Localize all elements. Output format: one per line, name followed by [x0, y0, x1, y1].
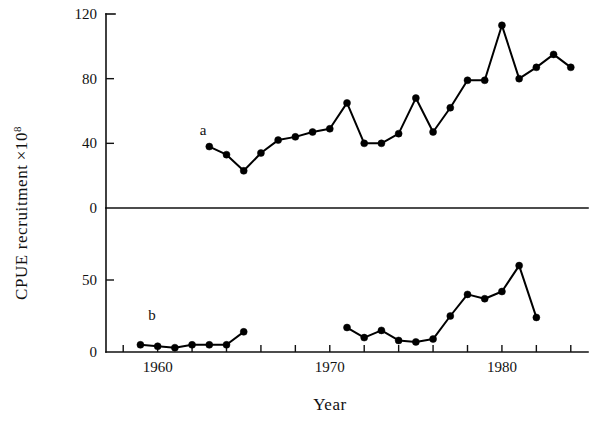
- series-a-point: [257, 150, 264, 157]
- figure-root: 04080120050196019701980 CPUE recruitment…: [0, 0, 602, 426]
- y-axis-title-exponent: 8: [11, 126, 23, 132]
- series-a-point: [326, 125, 333, 132]
- x-tick-label-1980: 1980: [487, 359, 517, 375]
- y-tick-label-bottom-50: 50: [82, 272, 97, 288]
- series-b-line: [347, 266, 536, 342]
- series-a-point: [567, 64, 574, 71]
- series-b-point: [223, 341, 230, 348]
- y-axis-title: CPUE recruitment×108: [11, 126, 31, 300]
- series-a-point: [395, 130, 402, 137]
- series-a-point: [412, 95, 419, 102]
- series-a-point: [533, 64, 540, 71]
- tick-marks: [106, 79, 571, 352]
- series-a-point: [516, 75, 523, 82]
- x-tick-label-1960: 1960: [143, 359, 173, 375]
- series-a-point: [464, 77, 471, 84]
- series-a-point: [275, 137, 282, 144]
- x-axis-title: Year: [313, 395, 347, 414]
- series-a-point: [344, 99, 351, 106]
- series-a-point: [361, 140, 368, 147]
- cpue-recruitment-chart: 04080120050196019701980 CPUE recruitment…: [0, 0, 602, 426]
- series-a-point: [223, 151, 230, 158]
- series-b-point: [344, 324, 351, 331]
- y-tick-label-bottom-0: 0: [90, 344, 98, 360]
- series-b-point: [430, 336, 437, 343]
- series-b-point: [533, 314, 540, 321]
- series-a-point: [481, 77, 488, 84]
- x-tick-label-1970: 1970: [315, 359, 345, 375]
- series-b-point: [378, 327, 385, 334]
- series-b-point: [516, 262, 523, 269]
- series-a-line: [209, 25, 571, 171]
- series-b-point: [447, 313, 454, 320]
- series-b-point: [137, 341, 144, 348]
- series-b-point: [240, 328, 247, 335]
- series-b-point: [395, 337, 402, 344]
- series-b-point: [154, 343, 161, 350]
- y-axis-title-multiplier: ×10: [12, 132, 31, 160]
- series-b-point: [361, 334, 368, 341]
- series-b-point: [206, 341, 213, 348]
- series-a-point: [206, 143, 213, 150]
- series-b-point: [464, 291, 471, 298]
- series-b-label: b: [148, 307, 156, 323]
- series-a-point: [292, 133, 299, 140]
- y-axis-title-main: CPUE recruitment: [12, 164, 31, 300]
- series-a-point: [447, 104, 454, 111]
- series-a-point: [498, 22, 505, 29]
- series-a-point: [240, 167, 247, 174]
- series-a-point: [430, 129, 437, 136]
- series-b-point: [189, 341, 196, 348]
- series-b-point: [412, 338, 419, 345]
- y-tick-label-top-0: 0: [90, 200, 98, 216]
- y-tick-label-top-80: 80: [82, 71, 97, 87]
- series-a-point: [309, 129, 316, 136]
- series-b-point: [171, 344, 178, 351]
- series-a-label: a: [200, 122, 207, 138]
- series-a-point: [378, 140, 385, 147]
- series-b-point: [498, 288, 505, 295]
- y-tick-label-top-120: 120: [75, 6, 98, 22]
- axis-lines: [106, 14, 588, 352]
- data-series: [137, 22, 574, 351]
- series-a-point: [550, 51, 557, 58]
- axis-group: [106, 14, 588, 352]
- series-b-point: [481, 295, 488, 302]
- y-tick-label-top-40: 40: [82, 135, 97, 151]
